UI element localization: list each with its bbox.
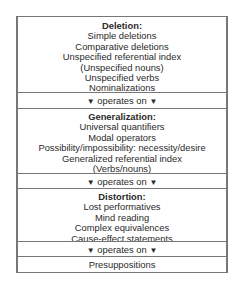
divider bbox=[18, 188, 226, 189]
generalization-section: Generalization: Universal quantifiers Mo… bbox=[18, 112, 226, 174]
down-arrow-icon: ▼ bbox=[87, 178, 95, 187]
connector-label: operates on bbox=[97, 244, 147, 255]
presuppositions-section: Presuppositions bbox=[18, 257, 226, 272]
divider bbox=[18, 108, 226, 109]
deletion-section: Deletion: Simple deletions Comparative d… bbox=[18, 21, 226, 94]
down-arrow-icon: ▼ bbox=[149, 246, 157, 255]
down-arrow-icon: ▼ bbox=[149, 97, 157, 106]
connector-label: operates on bbox=[97, 176, 147, 187]
distortion-section: Distortion: Lost performatives Mind read… bbox=[18, 192, 226, 244]
down-arrow-icon: ▼ bbox=[87, 97, 95, 106]
down-arrow-icon: ▼ bbox=[149, 178, 157, 187]
meta-model-diagram: Deletion: Simple deletions Comparative d… bbox=[16, 16, 228, 273]
down-arrow-icon: ▼ bbox=[87, 246, 95, 255]
operates-on-connector: ▼ operates on ▼ bbox=[18, 93, 226, 109]
presuppositions-item: Presuppositions bbox=[89, 259, 156, 270]
connector-label: operates on bbox=[97, 95, 147, 106]
